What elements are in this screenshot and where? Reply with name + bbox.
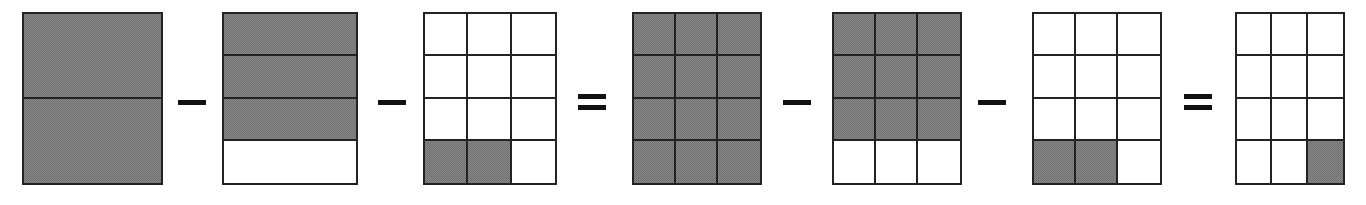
- shaded-cell: [224, 56, 356, 98]
- shaded-cell: [876, 56, 918, 98]
- shaded-cell: [834, 56, 876, 98]
- empty-cell: [512, 14, 555, 56]
- shaded-cell: [718, 56, 760, 98]
- shaded-cell: [834, 14, 876, 56]
- minus-bar: [783, 100, 811, 105]
- shaded-cell: [468, 141, 511, 183]
- empty-cell: [1034, 56, 1076, 98]
- figure-4-twelve-twelfths: [632, 12, 762, 185]
- empty-cell: [876, 141, 918, 183]
- shaded-cell: [1308, 141, 1343, 183]
- empty-cell: [468, 56, 511, 98]
- empty-cell: [1272, 14, 1307, 56]
- empty-cell: [1076, 56, 1118, 98]
- minus-bar: [978, 100, 1006, 105]
- minus-operator: [978, 84, 1006, 120]
- empty-cell: [1272, 56, 1307, 98]
- equals-bar: [1184, 105, 1212, 110]
- empty-cell: [512, 141, 555, 183]
- empty-cell: [512, 99, 555, 141]
- shaded-cell: [224, 99, 356, 141]
- empty-cell: [1237, 99, 1272, 141]
- shaded-cell: [24, 14, 161, 99]
- minus-operator: [178, 84, 206, 120]
- minus-bar: [178, 100, 206, 105]
- figure-6-two-twelfths: [1032, 12, 1162, 185]
- figure-5-nine-twelfths: [832, 12, 962, 185]
- empty-cell: [468, 14, 511, 56]
- shaded-cell: [634, 99, 676, 141]
- figure-7-one-twelfth: [1235, 12, 1345, 185]
- figure-3-two-twelfths: [423, 12, 557, 185]
- empty-cell: [1237, 14, 1272, 56]
- shaded-cell: [634, 56, 676, 98]
- empty-cell: [1118, 99, 1160, 141]
- empty-cell: [468, 99, 511, 141]
- shaded-cell: [718, 14, 760, 56]
- empty-cell: [224, 141, 356, 183]
- equation-strip: [0, 0, 1366, 205]
- shaded-cell: [1034, 141, 1076, 183]
- shaded-cell: [425, 141, 468, 183]
- shaded-cell: [918, 56, 960, 98]
- shaded-cell: [834, 99, 876, 141]
- empty-cell: [425, 56, 468, 98]
- empty-cell: [1308, 14, 1343, 56]
- shaded-cell: [876, 99, 918, 141]
- empty-cell: [1118, 141, 1160, 183]
- empty-cell: [1076, 99, 1118, 141]
- empty-cell: [834, 141, 876, 183]
- empty-cell: [1076, 14, 1118, 56]
- empty-cell: [1118, 56, 1160, 98]
- empty-cell: [1118, 14, 1160, 56]
- empty-cell: [1034, 99, 1076, 141]
- empty-cell: [1237, 56, 1272, 98]
- equals-bar: [578, 94, 606, 99]
- minus-operator: [783, 84, 811, 120]
- empty-cell: [1237, 141, 1272, 183]
- shaded-cell: [24, 99, 161, 184]
- equals-operator: [578, 84, 606, 120]
- empty-cell: [1308, 99, 1343, 141]
- equals-bar: [578, 105, 606, 110]
- shaded-cell: [876, 14, 918, 56]
- shaded-cell: [718, 141, 760, 183]
- empty-cell: [1308, 56, 1343, 98]
- shaded-cell: [918, 14, 960, 56]
- shaded-cell: [224, 14, 356, 56]
- shaded-cell: [676, 141, 718, 183]
- empty-cell: [1034, 14, 1076, 56]
- shaded-cell: [718, 99, 760, 141]
- shaded-cell: [676, 99, 718, 141]
- empty-cell: [1272, 141, 1307, 183]
- empty-cell: [425, 14, 468, 56]
- shaded-cell: [676, 14, 718, 56]
- shaded-cell: [676, 56, 718, 98]
- empty-cell: [512, 56, 555, 98]
- equals-bar: [1184, 94, 1212, 99]
- figure-1-whole-halves: [22, 12, 163, 185]
- shaded-cell: [634, 141, 676, 183]
- empty-cell: [918, 141, 960, 183]
- figure-2-three-fourths: [222, 12, 358, 185]
- minus-bar: [378, 100, 406, 105]
- equals-operator: [1184, 84, 1212, 120]
- empty-cell: [1272, 99, 1307, 141]
- shaded-cell: [918, 99, 960, 141]
- empty-cell: [425, 99, 468, 141]
- minus-operator: [378, 84, 406, 120]
- shaded-cell: [634, 14, 676, 56]
- shaded-cell: [1076, 141, 1118, 183]
